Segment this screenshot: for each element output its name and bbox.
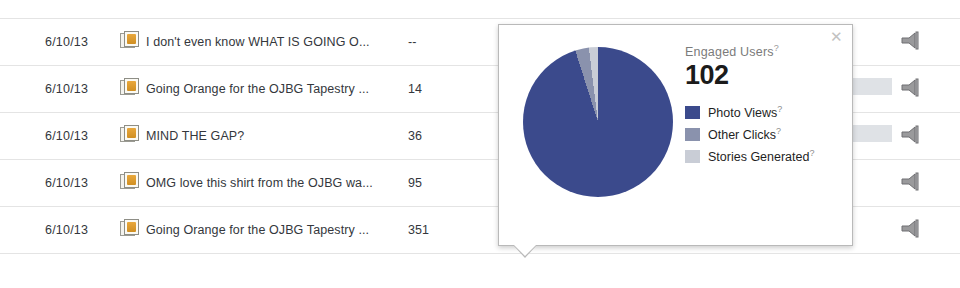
post-reach: -- — [408, 35, 416, 49]
post-date: 6/10/13 — [45, 176, 88, 190]
megaphone-icon[interactable] — [899, 31, 923, 51]
post-title[interactable]: MIND THE GAP? — [146, 129, 244, 143]
post-reach: 14 — [408, 82, 422, 96]
stacked-photos-icon — [120, 172, 140, 192]
legend-item-photo-views: Photo Views? — [685, 104, 845, 120]
post-date: 6/10/13 — [45, 129, 88, 143]
legend-item-other-clicks: Other Clicks? — [685, 126, 845, 142]
post-title[interactable]: OMG love this shirt from the OJBG wa... — [146, 176, 373, 190]
engaged-users-pie-chart — [523, 47, 673, 197]
stacked-photos-icon — [120, 125, 140, 145]
legend-swatch — [685, 150, 700, 163]
post-reach: 95 — [408, 176, 422, 190]
legend-label-text: Stories Generated — [708, 151, 809, 165]
post-date: 6/10/13 — [45, 35, 88, 49]
legend-label: Other Clicks? — [708, 126, 781, 142]
post-reach: 36 — [408, 129, 422, 143]
legend-item-stories-generated: Stories Generated? — [685, 148, 845, 164]
stacked-photos-icon — [120, 31, 140, 51]
help-icon[interactable]: ? — [776, 126, 781, 136]
legend-swatch — [685, 128, 700, 141]
megaphone-icon[interactable] — [899, 219, 923, 239]
legend-label-text: Other Clicks — [708, 128, 776, 142]
legend-label-text: Photo Views — [708, 106, 777, 120]
legend-label: Photo Views? — [708, 104, 782, 120]
pie-slices — [523, 47, 673, 197]
post-title[interactable]: Going Orange for the OJBG Tapestry ... — [146, 223, 369, 237]
help-icon[interactable]: ? — [777, 104, 782, 114]
post-title[interactable]: Going Orange for the OJBG Tapestry ... — [146, 82, 369, 96]
megaphone-icon[interactable] — [899, 125, 923, 145]
metric-label-text: Engaged Users — [685, 45, 774, 59]
table-row-bottom-border — [0, 253, 960, 288]
stacked-photos-icon — [120, 78, 140, 98]
megaphone-icon[interactable] — [899, 172, 923, 192]
stacked-photos-icon — [120, 219, 140, 239]
popover-tail-inner — [513, 244, 537, 256]
legend-label: Stories Generated? — [708, 148, 814, 164]
post-date: 6/10/13 — [45, 223, 88, 237]
post-reach: 351 — [408, 223, 429, 237]
post-date: 6/10/13 — [45, 82, 88, 96]
post-title[interactable]: I don't even know WHAT IS GOING O... — [146, 35, 370, 49]
metric-label: Engaged Users? — [685, 43, 845, 59]
megaphone-icon[interactable] — [899, 78, 923, 98]
engagement-popover: ✕ Engaged Users? 102 Photo Views? Other … — [498, 24, 853, 246]
help-icon[interactable]: ? — [809, 148, 814, 158]
popover-info: Engaged Users? 102 Photo Views? Other Cl… — [685, 43, 845, 171]
metric-value: 102 — [685, 60, 845, 90]
legend-swatch — [685, 106, 700, 119]
help-icon[interactable]: ? — [774, 43, 779, 53]
